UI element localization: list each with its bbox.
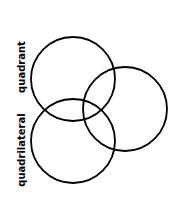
- circle-top: [31, 37, 115, 121]
- label-quadrilateral: quadrilateral: [16, 113, 27, 186]
- venn-diagram: quadrant quadrilateral: [0, 0, 171, 219]
- label-quadrant: quadrant: [16, 41, 27, 93]
- circle-bottom: [31, 99, 115, 183]
- circle-right: [83, 67, 167, 151]
- venn-svg: quadrant quadrilateral: [0, 0, 171, 219]
